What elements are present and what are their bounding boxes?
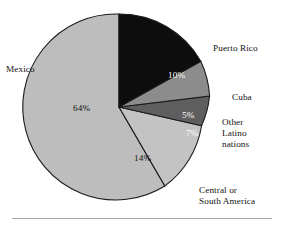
slice-label-cuba: Cuba [232,92,252,103]
slice-label-central-line-2: South America [199,196,283,207]
slice-value-puerto-rico: 10% [168,70,185,80]
slice-label-other-latino-line-3: nations [222,139,278,150]
pie-chart-figure: Mexico Puerto Rico Cuba Other Latino nat… [0,0,285,229]
slice-label-puerto-rico: Puerto Rico [213,43,258,54]
slice-value-other-latino-nations: 7% [186,128,199,138]
slice-label-central-or-south-america: Central or South America [199,185,283,207]
slice-value-cuba: 5% [182,110,195,120]
slice-label-mexico: Mexico [6,64,35,75]
horizontal-divider [12,218,272,219]
slice-value-mexico: 64% [73,103,90,113]
slice-label-central-line-1: Central or [199,185,283,196]
slice-label-other-latino-line-1: Other [222,117,278,128]
slice-label-other-latino-nations: Other Latino nations [222,117,278,150]
slice-label-other-latino-line-2: Latino [222,128,278,139]
slice-value-central-or-south-america: 14% [134,153,151,163]
